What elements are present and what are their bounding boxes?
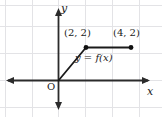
y-axis-label: y bbox=[61, 3, 67, 14]
x-axis-label: x bbox=[147, 86, 153, 97]
data-point-marker-a bbox=[84, 45, 89, 50]
coordinate-plane-figure: y x O (2, 2) (4, 2) y = f(x) bbox=[0, 0, 162, 117]
data-point-marker-b bbox=[129, 45, 134, 50]
point-label-2-2: (2, 2) bbox=[64, 28, 91, 38]
function-equation-label: y = f(x) bbox=[75, 53, 113, 63]
origin-label: O bbox=[47, 82, 55, 92]
point-label-4-2: (4, 2) bbox=[113, 28, 140, 38]
